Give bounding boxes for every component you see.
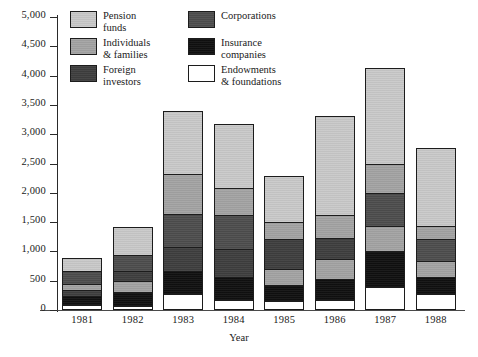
- bar-segment-endowments[interactable]: [164, 294, 202, 309]
- y-axis-tick-mark: [50, 193, 57, 194]
- bar-segment-foreign[interactable]: [316, 238, 354, 258]
- y-axis-tick-label: 3,500: [21, 97, 46, 108]
- y-axis-tick-label: 3,000: [21, 126, 46, 137]
- bar-segment-individuals[interactable]: [316, 215, 354, 238]
- chart-legend: Pension fundsCorporationsIndividuals & f…: [70, 10, 320, 92]
- legend-label-corporations: Corporations: [221, 10, 276, 22]
- legend-item-insurance[interactable]: Insurance companies: [188, 37, 320, 64]
- bar-segment-individuals2[interactable]: [417, 261, 455, 277]
- y-axis-tick-mark: [50, 105, 57, 106]
- bar-segment-individuals2[interactable]: [316, 259, 354, 280]
- y-axis-tick-label: 0: [41, 302, 46, 313]
- bar-segment-individuals2[interactable]: [265, 269, 303, 285]
- y-axis-tick-label: 1,000: [21, 243, 46, 254]
- legend-item-individuals[interactable]: Individuals & families: [70, 37, 188, 64]
- bar-segment-pension[interactable]: [366, 69, 404, 164]
- legend-item-pension[interactable]: Pension funds: [70, 10, 188, 37]
- bar-segment-endowments[interactable]: [417, 294, 455, 309]
- y-axis-tick-label: 500: [30, 273, 46, 284]
- bar-segment-foreign[interactable]: [215, 249, 253, 276]
- y-axis-tick-label: 2,000: [21, 185, 46, 196]
- bar-segment-pension[interactable]: [265, 177, 303, 221]
- bar-segment-corporations[interactable]: [114, 255, 152, 270]
- bar-segment-pension[interactable]: [417, 149, 455, 226]
- bar-1988[interactable]: [416, 148, 456, 310]
- y-axis-tick-label: 1,500: [21, 214, 46, 225]
- bar-1987[interactable]: [365, 68, 405, 310]
- y-axis-tick-mark: [50, 310, 57, 311]
- bar-1983[interactable]: [163, 111, 203, 310]
- x-axis-title: Year: [0, 332, 478, 343]
- bar-1985[interactable]: [264, 176, 304, 310]
- x-axis-line: [40, 310, 465, 311]
- bar-1982[interactable]: [113, 227, 153, 310]
- y-axis-tick-label: 4,500: [21, 38, 46, 49]
- bar-1981[interactable]: [62, 258, 102, 310]
- y-axis-tick-mark: [50, 76, 57, 77]
- stacked-bar-chart: 05001,0001,5002,0002,5003,0003,5004,0004…: [0, 0, 478, 357]
- bar-segment-insurance[interactable]: [215, 277, 253, 301]
- bar-segment-pension[interactable]: [114, 228, 152, 255]
- bar-1986[interactable]: [315, 116, 355, 310]
- bar-segment-pension[interactable]: [164, 112, 202, 175]
- legend-swatch-endowments: [188, 65, 215, 82]
- x-axis-tick-label-1988: 1988: [406, 314, 466, 325]
- y-axis-tick-mark: [50, 164, 57, 165]
- bar-segment-insurance[interactable]: [265, 285, 303, 302]
- legend-swatch-corporations: [188, 11, 215, 28]
- y-axis-tick-mark: [50, 46, 57, 47]
- bar-segment-corporations[interactable]: [366, 193, 404, 226]
- bar-segment-individuals[interactable]: [114, 281, 152, 292]
- bar-segment-corporations[interactable]: [63, 271, 101, 283]
- legend-label-endowments: Endowments & foundations: [221, 64, 281, 87]
- bar-segment-endowments[interactable]: [215, 300, 253, 309]
- bar-1984[interactable]: [214, 124, 254, 310]
- bar-segment-foreign[interactable]: [164, 247, 202, 271]
- legend-label-individuals: Individuals & families: [103, 37, 150, 60]
- bar-segment-endowments[interactable]: [366, 287, 404, 309]
- bar-segment-individuals[interactable]: [366, 164, 404, 194]
- y-axis-tick-label: 4,000: [21, 68, 46, 79]
- y-axis-tick-mark: [50, 222, 57, 223]
- bar-segment-corporations[interactable]: [215, 215, 253, 249]
- y-axis-tick-mark: [50, 251, 57, 252]
- legend-item-endowments[interactable]: Endowments & foundations: [188, 64, 320, 91]
- bar-segment-endowments[interactable]: [316, 300, 354, 309]
- bar-segment-individuals[interactable]: [215, 188, 253, 215]
- bar-segment-corporations[interactable]: [417, 239, 455, 261]
- legend-item-corporations[interactable]: Corporations: [188, 10, 320, 37]
- y-axis-tick-mark: [50, 17, 57, 18]
- legend-swatch-individuals: [70, 38, 97, 55]
- y-axis-tick-label: 2,500: [21, 156, 46, 167]
- y-axis-tick-label: 5,000: [21, 9, 46, 20]
- bar-segment-endowments[interactable]: [63, 305, 101, 309]
- bar-segment-pension[interactable]: [215, 125, 253, 188]
- bar-segment-insurance[interactable]: [366, 251, 404, 288]
- bar-segment-insurance[interactable]: [417, 277, 455, 294]
- legend-swatch-insurance: [188, 38, 215, 55]
- legend-label-foreign: Foreign investors: [103, 64, 141, 87]
- bar-segment-pension[interactable]: [63, 259, 101, 271]
- bar-segment-insurance[interactable]: [114, 292, 152, 305]
- y-axis-tick-mark: [50, 134, 57, 135]
- y-axis-tick-mark: [50, 281, 57, 282]
- bar-segment-individuals2[interactable]: [366, 226, 404, 251]
- bar-segment-insurance[interactable]: [63, 296, 101, 305]
- bar-segment-individuals[interactable]: [417, 226, 455, 239]
- legend-label-pension: Pension funds: [103, 10, 136, 33]
- bar-segment-insurance[interactable]: [164, 271, 202, 294]
- bar-segment-pension[interactable]: [316, 117, 354, 215]
- legend-label-insurance: Insurance companies: [221, 37, 266, 60]
- legend-swatch-foreign: [70, 65, 97, 82]
- bar-segment-individuals[interactable]: [164, 174, 202, 214]
- bar-segment-insurance[interactable]: [316, 279, 354, 299]
- legend-item-foreign[interactable]: Foreign investors: [70, 64, 188, 91]
- bar-segment-foreign[interactable]: [114, 271, 152, 281]
- bar-segment-foreign[interactable]: [265, 239, 303, 268]
- bar-segment-individuals[interactable]: [265, 222, 303, 239]
- legend-swatch-pension: [70, 11, 97, 28]
- bar-segment-endowments[interactable]: [265, 301, 303, 309]
- bar-segment-endowments[interactable]: [114, 306, 152, 309]
- bar-segment-corporations[interactable]: [164, 214, 202, 247]
